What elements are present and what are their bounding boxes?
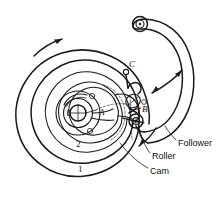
callout-cam: Cam <box>150 167 169 176</box>
turn-label-1: 1 <box>78 165 83 174</box>
point-label-a: A <box>99 108 105 117</box>
follower-motion-arrow-upper-tailhead <box>152 86 159 93</box>
cam-diagram-svg <box>0 0 224 200</box>
point-label-c: C <box>129 60 135 69</box>
turn-label-2: 2 <box>76 140 81 149</box>
follower-pivot-dot <box>139 23 141 25</box>
pin-c-circle <box>123 69 128 74</box>
callout-follower: Follower <box>178 139 212 148</box>
leader-cam <box>120 143 148 168</box>
hub-web-arm-lower <box>91 118 114 120</box>
link-c-stem <box>126 75 128 88</box>
point-label-b: B <box>142 105 148 114</box>
roller-pin-dot <box>135 120 138 123</box>
callout-roller: Roller <box>152 152 176 161</box>
figure-container: Follower Roller Cam A B C 2 1 <box>0 0 224 200</box>
